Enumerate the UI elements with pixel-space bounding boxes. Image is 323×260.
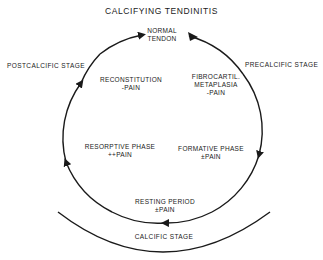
calcifying-tendinitis-diagram: CALCIFYING TENDINITIS POSTCALCIFIC STAGE… [0, 0, 323, 260]
phase-normal-tendon: NORMAL TENDON [142, 27, 182, 43]
phase-resorptive: RESORPTIVE PHASE ++PAIN [83, 143, 157, 159]
arc-normal-to-fibro [189, 36, 243, 74]
diagram-title: CALCIFYING TENDINITIS [0, 6, 323, 16]
arc-right-lower [212, 155, 259, 212]
arc-left-lower [66, 162, 112, 212]
calcific-stage-arc [58, 212, 270, 252]
arc-left-upper [63, 83, 81, 162]
precalcific-stage-label: PRECALCIFIC STAGE [245, 61, 318, 68]
arc-postcalcific-to-normal [100, 35, 142, 54]
phase-fibrocartilaginous-metaplasia: FIBROCARTIL. METAPLASIA -PAIN [186, 73, 246, 97]
calcific-stage-label: CALCIFIC STAGE [124, 233, 204, 240]
postcalcific-stage-label: POSTCALCIFIC STAGE [7, 62, 85, 69]
phase-resting-period: RESTING PERIOD ±PAIN [130, 198, 200, 214]
phase-reconstitution: RECONSTITUTION -PAIN [96, 76, 166, 92]
phase-formative: FORMATIVE PHASE ±PAIN [176, 145, 246, 161]
arrowhead-normal-right [188, 32, 198, 41]
